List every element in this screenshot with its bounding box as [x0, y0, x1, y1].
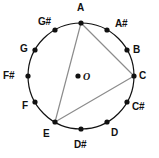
note-label-d: D: [111, 128, 118, 138]
center-point-dot: [75, 73, 80, 78]
note-label-b: B: [133, 45, 140, 55]
note-point-e[interactable]: [52, 119, 57, 124]
note-label-e: E: [43, 129, 49, 139]
note-point-csharp[interactable]: [124, 99, 129, 104]
note-point-g[interactable]: [32, 47, 37, 52]
chromatic-circle: [28, 23, 134, 129]
note-label-f: F: [22, 101, 28, 111]
note-label-gsharp: G#: [38, 17, 51, 27]
note-label-asharp: A#: [115, 19, 127, 29]
note-point-a[interactable]: [78, 20, 83, 25]
note-point-asharp[interactable]: [104, 27, 109, 32]
note-point-gsharp[interactable]: [52, 27, 57, 32]
chromatic-circle-figure: AA#BCC#DD#EFF#GG# O: [0, 0, 159, 158]
note-label-csharp: C#: [132, 102, 144, 112]
note-label-dsharp: D#: [74, 140, 86, 150]
note-label-a: A: [77, 3, 84, 13]
note-point-f[interactable]: [32, 99, 37, 104]
note-point-group: [25, 20, 136, 131]
inscribed-triangle: [55, 23, 134, 122]
note-point-b[interactable]: [124, 47, 129, 52]
note-point-d[interactable]: [104, 119, 109, 124]
center-point-label: O: [83, 72, 90, 82]
figure-canvas: [0, 0, 159, 158]
note-point-dsharp[interactable]: [78, 126, 83, 131]
note-label-fsharp: F#: [3, 71, 14, 81]
note-label-c: C: [139, 71, 146, 81]
note-point-c[interactable]: [131, 73, 136, 78]
note-label-g: G: [20, 44, 28, 54]
note-point-fsharp[interactable]: [25, 73, 30, 78]
triangle-group: [55, 23, 134, 122]
